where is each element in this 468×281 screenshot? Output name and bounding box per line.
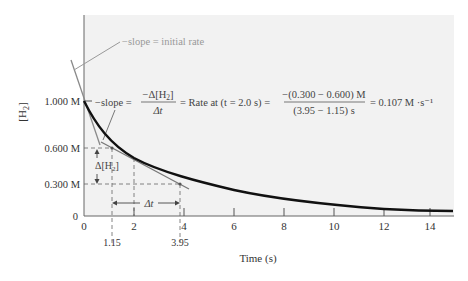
y-tick-labels: 0 0.300 M 0.600 M 1.000 M — [44, 96, 80, 222]
svg-text:Δt: Δt — [152, 105, 163, 116]
x-tick-labels: 0 2 4 6 8 10 12 14 1.15 3.95 — [81, 220, 436, 248]
svg-text:(3.95 − 1.15) s: (3.95 − 1.15) s — [293, 105, 355, 117]
svg-text:10: 10 — [329, 220, 341, 232]
y-axis-title: [H2] — [16, 102, 31, 121]
chart-figure: 0 2 4 6 8 10 12 14 1.15 3.95 0 0.300 M 0… — [0, 0, 468, 281]
svg-text:0: 0 — [81, 220, 87, 232]
svg-text:0: 0 — [73, 211, 78, 222]
svg-text:0.300 M: 0.300 M — [44, 179, 80, 190]
svg-text:2: 2 — [131, 220, 137, 232]
point-3-95 — [178, 182, 181, 185]
svg-text:4: 4 — [181, 220, 187, 232]
svg-text:8: 8 — [281, 220, 287, 232]
svg-text:−(0.300 − 0.600) M: −(0.300 − 0.600) M — [282, 89, 366, 101]
svg-text:14: 14 — [425, 220, 437, 232]
svg-text:12: 12 — [379, 220, 390, 232]
svg-text:6: 6 — [231, 220, 237, 232]
svg-text:= 0.107 M ·s⁻¹: = 0.107 M ·s⁻¹ — [370, 97, 433, 108]
delta-t-label: Δt — [143, 198, 154, 209]
svg-text:0.600 M: 0.600 M — [44, 143, 80, 154]
svg-text:= Rate at (t = 2.0 s) =: = Rate at (t = 2.0 s) = — [180, 97, 270, 109]
initial-rate-annotation: −slope = initial rate — [122, 36, 204, 47]
svg-text:−slope =: −slope = — [95, 97, 132, 108]
point-1-15 — [110, 146, 113, 149]
svg-text:1.000 M: 1.000 M — [44, 96, 80, 107]
x-axis-title: Time (s) — [239, 252, 277, 265]
